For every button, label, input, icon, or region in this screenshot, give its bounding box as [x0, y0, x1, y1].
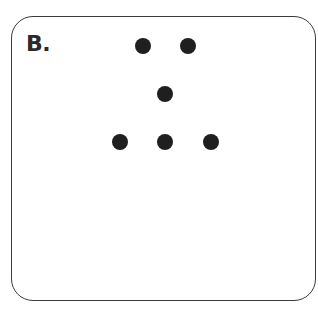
dot-1 [135, 38, 151, 54]
diagram-panel [11, 16, 316, 301]
panel-label: B. [26, 33, 50, 55]
dot-4 [112, 134, 128, 150]
dot-2 [180, 38, 196, 54]
dot-6 [203, 134, 219, 150]
dot-5 [157, 134, 173, 150]
dot-3 [157, 86, 173, 102]
